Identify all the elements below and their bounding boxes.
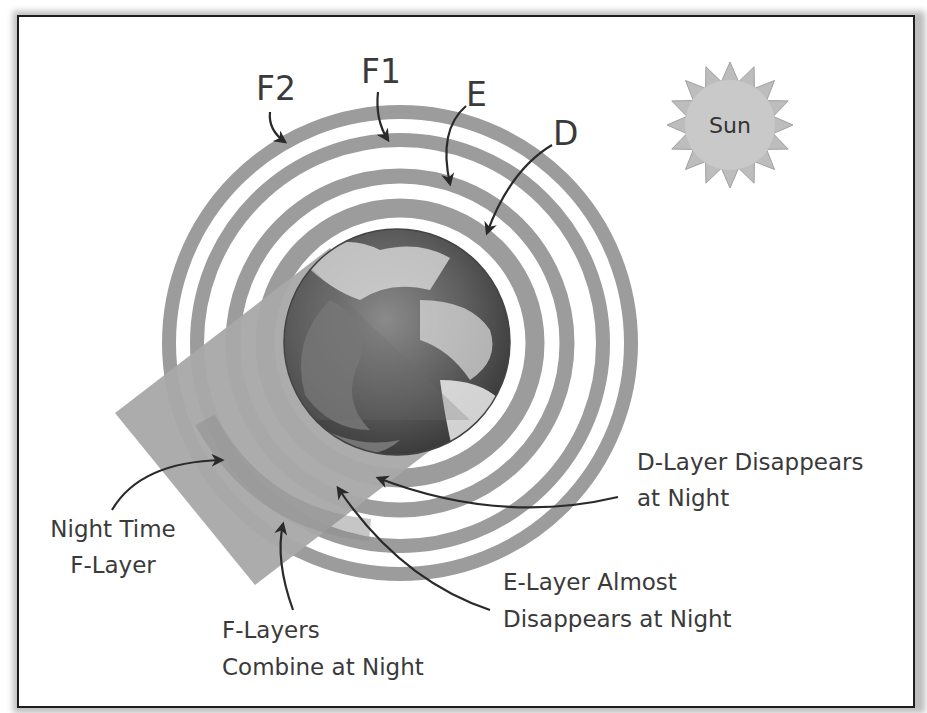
sun-label: Sun	[709, 113, 751, 138]
layer-label-e: E	[466, 75, 487, 114]
sun-icon: Sun	[667, 62, 793, 188]
layer-label-f2: F2	[256, 69, 296, 108]
d-layer-note-line2: at Night	[637, 485, 729, 511]
e-layer-note-line1: E-Layer Almost	[503, 569, 677, 595]
ionosphere-diagram: Sun F2 F1 E D D-Layer Disappears at Nigh…	[0, 0, 927, 713]
e-layer-note-line2: Disappears at Night	[503, 606, 732, 632]
night-f-note-line1: Night Time	[50, 516, 175, 542]
d-layer-note-line1: D-Layer Disappears	[637, 449, 864, 475]
f-combine-note-line2: Combine at Night	[222, 654, 424, 680]
layer-label-f1: F1	[361, 52, 401, 91]
layer-label-d: D	[553, 114, 578, 153]
f-combine-note-line1: F-Layers	[222, 617, 320, 643]
night-f-note-line2: F-Layer	[70, 552, 156, 578]
